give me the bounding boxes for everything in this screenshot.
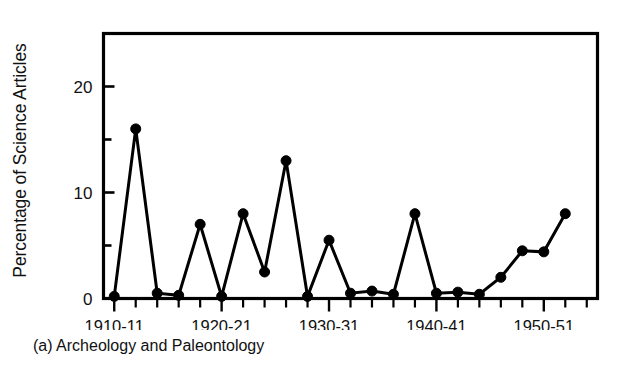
x-axis-tick-label: 1920-21 bbox=[191, 317, 252, 331]
data-point-marker bbox=[238, 209, 248, 219]
data-point-marker bbox=[131, 124, 141, 134]
data-point-marker bbox=[388, 289, 398, 299]
data-point-marker bbox=[217, 291, 227, 301]
data-point-marker bbox=[195, 219, 205, 229]
data-point-marker bbox=[367, 286, 377, 296]
data-point-marker bbox=[152, 288, 162, 298]
data-point-marker bbox=[560, 209, 570, 219]
data-point-marker bbox=[260, 267, 270, 277]
y-axis-tick-label: 0 bbox=[83, 290, 92, 309]
data-point-marker bbox=[303, 291, 313, 301]
x-axis-tick-label: 1950-51 bbox=[514, 317, 575, 331]
data-point-marker bbox=[474, 289, 484, 299]
x-axis-tick-label: 1910-11 bbox=[85, 317, 144, 331]
data-point-marker bbox=[174, 290, 184, 300]
figure-container: Percentage of Science Articles 010201910… bbox=[0, 0, 632, 376]
data-point-marker bbox=[109, 291, 119, 301]
data-point-marker bbox=[539, 247, 549, 257]
data-point-marker bbox=[281, 156, 291, 166]
data-point-marker bbox=[324, 235, 334, 245]
x-axis-tick-label: 1940-41 bbox=[406, 317, 467, 331]
plot-frame bbox=[104, 34, 598, 299]
data-point-marker bbox=[496, 272, 506, 282]
data-point-marker bbox=[346, 288, 356, 298]
data-series-line bbox=[114, 129, 565, 296]
y-axis-tick-label: 20 bbox=[74, 78, 93, 97]
data-point-marker bbox=[453, 287, 463, 297]
x-axis-tick-label: 1930-31 bbox=[299, 317, 360, 331]
y-axis-tick-label: 10 bbox=[74, 184, 93, 203]
data-point-marker bbox=[431, 288, 441, 298]
line-chart-plot: 010201910-111920-211930-311940-411950-51 bbox=[0, 0, 632, 330]
data-point-marker bbox=[410, 209, 420, 219]
data-point-marker bbox=[517, 246, 527, 256]
figure-caption: (a) Archeology and Paleontology bbox=[33, 337, 264, 355]
